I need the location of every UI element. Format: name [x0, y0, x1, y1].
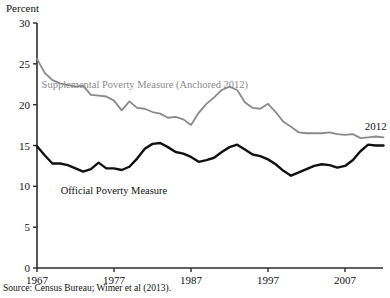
x-axis-tick-label: 1977 — [103, 274, 125, 286]
series-line-supplemental-poverty-measure — [37, 59, 384, 138]
y-axis-tick-label: 20 — [4, 99, 30, 111]
annotation-spm-label: Supplemental Poverty Measure (Anchored 2… — [42, 79, 248, 90]
y-axis-tick-label: 15 — [4, 140, 30, 152]
series-line-official-poverty-measure — [37, 143, 384, 176]
y-axis-tick-label: 5 — [4, 221, 30, 233]
y-axis-title: Percent — [6, 2, 39, 14]
y-axis-tick-label: 10 — [4, 180, 30, 192]
x-axis-tick-label: 1987 — [180, 274, 202, 286]
chart-plot-area — [0, 0, 390, 298]
x-axis-tick-label: 1997 — [257, 274, 279, 286]
y-axis-tick-label: 30 — [4, 17, 30, 29]
x-axis-tick-label: 2007 — [334, 274, 356, 286]
poverty-rate-chart: Percent Source: Census Bureau; Wimer et … — [0, 0, 390, 298]
y-axis-tick-label: 0 — [4, 262, 30, 274]
annotation-end-year: 2012 — [365, 120, 387, 132]
x-axis-tick-label: 1967 — [26, 274, 48, 286]
y-axis-tick-label: 25 — [4, 58, 30, 70]
annotation-opm-label: Official Poverty Measure — [61, 184, 168, 195]
